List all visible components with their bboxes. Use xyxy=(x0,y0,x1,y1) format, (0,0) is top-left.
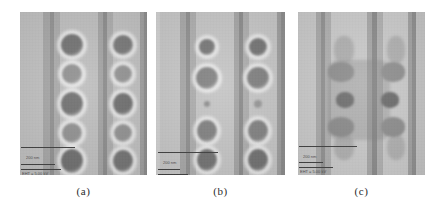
scale-bar-line xyxy=(21,147,75,148)
void-blob xyxy=(113,93,133,115)
overlay-lobe xyxy=(381,117,405,137)
scale-bar-line xyxy=(158,152,218,153)
stripe-band xyxy=(281,12,285,175)
void-blob xyxy=(197,120,217,142)
void-blob xyxy=(199,39,215,55)
overlay-lobe xyxy=(381,62,405,82)
void-blob xyxy=(61,92,83,116)
panel-caption-b: (b) xyxy=(156,185,285,197)
faint-void-blob xyxy=(334,36,354,64)
void-blob xyxy=(61,34,83,56)
figure-root: 200 nmEHT = 5.00 kV 200 nmEHT = 5.00 kV … xyxy=(0,0,445,210)
annotation-label: 200 nm xyxy=(26,156,39,160)
annotation-label: 200 nm xyxy=(303,155,316,159)
micrograph-panel-b[interactable]: 200 nmEHT = 5.00 kV xyxy=(156,12,285,175)
scale-bar-line xyxy=(299,146,357,147)
void-blob xyxy=(249,38,267,56)
faint-void-blob xyxy=(387,134,405,160)
void-blob xyxy=(196,67,218,89)
stripe-band xyxy=(144,12,147,175)
void-blob xyxy=(248,149,268,171)
annotation-tick-line xyxy=(21,164,55,165)
void-blob xyxy=(204,101,210,107)
faint-void-blob xyxy=(334,134,354,160)
overlay-lobe xyxy=(328,62,354,82)
panel-caption-a: (a) xyxy=(20,185,147,197)
panel-caption-c: (c) xyxy=(298,185,425,197)
void-blob xyxy=(114,124,132,142)
annotation-label: EHT = 5.00 kV xyxy=(300,170,326,174)
void-blob xyxy=(113,35,133,55)
stripe-band xyxy=(20,12,43,175)
void-blob xyxy=(247,67,269,89)
stripe-band xyxy=(43,12,50,175)
annotation-tick-line xyxy=(299,167,333,168)
stripe-band xyxy=(298,12,316,175)
void-blob xyxy=(114,65,132,83)
faint-void-blob xyxy=(387,36,405,64)
void-blob xyxy=(248,120,268,142)
void-blob xyxy=(61,149,83,173)
annotation-label: 200 nm xyxy=(163,161,176,165)
stripe-band xyxy=(416,12,425,175)
overlay-lobe xyxy=(336,92,354,108)
annotation-tick-line xyxy=(21,169,61,170)
overlay-lobe xyxy=(328,117,354,137)
void-blob xyxy=(254,100,262,108)
void-blob xyxy=(62,64,82,84)
micrograph-panel-a[interactable]: 200 nmEHT = 5.00 kV xyxy=(20,12,147,175)
annotation-label: EHT = 5.00 kV xyxy=(22,172,48,175)
void-blob xyxy=(62,123,82,143)
annotation-tick-line xyxy=(158,169,180,170)
overlay-lobe xyxy=(381,92,399,108)
void-blob xyxy=(113,150,133,172)
stripe-band xyxy=(160,12,180,175)
annotation-tick-line xyxy=(299,162,323,163)
micrograph-panel-c[interactable]: 200 nmEHT = 5.00 kV xyxy=(298,12,425,175)
annotation-tick-line xyxy=(158,174,188,175)
